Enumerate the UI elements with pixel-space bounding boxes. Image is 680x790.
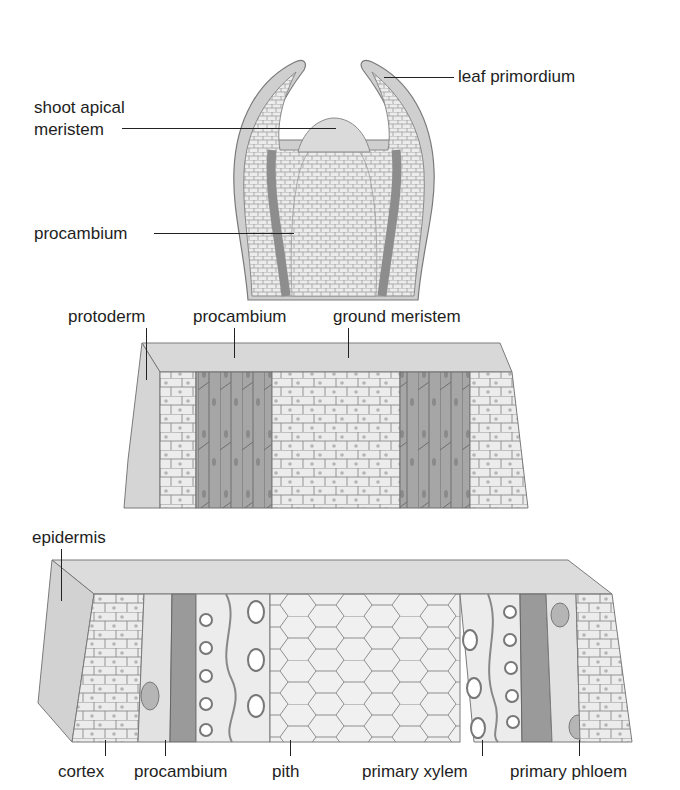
label-shoot-apical-meristem-line2: meristem	[34, 120, 104, 139]
leader-procambium-shoot	[154, 233, 294, 234]
leader-primary-phloem	[579, 740, 580, 756]
leader-pith	[290, 740, 291, 756]
leader-epidermis	[61, 549, 62, 601]
leader-primary-xylem	[482, 740, 483, 756]
leader-procambium-meristem	[234, 328, 235, 358]
label-procambium-tissue: procambium	[134, 762, 228, 781]
primary-meristem-block	[124, 343, 528, 508]
leader-cortex	[105, 740, 106, 756]
label-primary-xylem: primary xylem	[362, 762, 468, 781]
label-pith: pith	[272, 762, 299, 781]
leader-procambium-tissue	[165, 740, 166, 756]
label-procambium-shoot: procambium	[34, 224, 128, 243]
label-epidermis: epidermis	[32, 528, 106, 547]
primary-tissues-block	[38, 560, 632, 742]
leader-protoderm	[146, 328, 147, 380]
leader-shoot-apical-meristem	[122, 128, 336, 129]
label-shoot-apical-meristem-line1: shoot apical	[34, 98, 125, 117]
label-protoderm: protoderm	[68, 307, 145, 326]
label-ground-meristem: ground meristem	[333, 307, 461, 326]
label-cortex: cortex	[58, 762, 104, 781]
shoot-tip-section	[234, 60, 434, 300]
label-leaf-primordium: leaf primordium	[458, 67, 575, 86]
label-primary-phloem: primary phloem	[510, 762, 627, 781]
leader-leaf-primordium	[384, 77, 454, 78]
stem-tissue-illustration	[0, 0, 680, 790]
label-procambium-meristem: procambium	[193, 307, 287, 326]
leader-ground-meristem	[348, 328, 349, 358]
